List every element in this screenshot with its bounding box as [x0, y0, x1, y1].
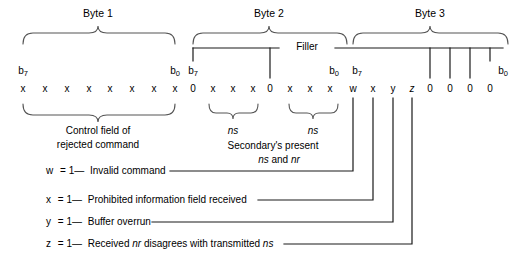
legend-eq-z: = 1— [58, 238, 82, 249]
bit-byte2-6: x [303, 84, 317, 94]
bit-byte2-1: x [206, 84, 220, 94]
legend-key-z: z [46, 238, 51, 249]
bit-byte1-1: x [38, 84, 52, 94]
bit-byte1-7: x [168, 84, 182, 94]
bit-byte2-3: x [246, 84, 260, 94]
byte-1-caption-line-1: Control field of [66, 126, 130, 136]
byte-2-msb-sub: 7 [194, 69, 198, 78]
bit-byte3-5: 0 [443, 84, 457, 94]
bit-byte2-4: 0 [263, 84, 277, 94]
legend-row-x: x = 1— Prohibited information field rece… [46, 195, 247, 205]
byte-2-lsb-label: b0 [329, 66, 339, 76]
bit-byte1-3: x [82, 84, 96, 94]
bit-byte1-5: x [125, 84, 139, 94]
legend-text-y: Buffer overrun [88, 216, 151, 227]
bit-byte1-4: x [103, 84, 117, 94]
bit-byte1-2: x [60, 84, 74, 94]
byte-3-msb-label: b7 [352, 66, 362, 76]
brace-ns-2 [289, 104, 338, 119]
byte-1-lsb-sub: 0 [176, 69, 180, 78]
byte-1-msb-label: b7 [18, 66, 28, 76]
ns-label-2: ns [308, 126, 319, 136]
byte-3-title: Byte 3 [415, 8, 445, 19]
ns-label-1: ns [228, 126, 239, 136]
bit-byte3-4: 0 [423, 84, 437, 94]
brace-byte-2 [193, 26, 347, 44]
legend-key-y: y [46, 216, 51, 227]
byte-2-title: Byte 2 [254, 8, 284, 19]
legend-row-y: y = 1— Buffer overrun [46, 217, 151, 227]
legend-row-w: w = 1— Invalid command [46, 166, 166, 176]
byte-1-title: Byte 1 [83, 8, 113, 19]
nr-italic: nr [291, 154, 300, 165]
bit-byte1-0: x [16, 84, 30, 94]
legend-eq-y: = 1— [58, 216, 82, 227]
legend-row-z: z = 1— Received nr disagrees with transm… [46, 239, 273, 249]
byte-2-caption-line-1: Secondary's present [228, 141, 319, 151]
legend-text-x: Prohibited information field received [88, 194, 247, 205]
legend-text-z-pre: Received [88, 238, 132, 249]
byte-1-lsb-label: b0 [170, 66, 180, 76]
legend-key-w: w [46, 165, 53, 176]
byte-2-msb-label: b7 [188, 66, 198, 76]
brace-byte-3 [353, 26, 508, 44]
bit-byte2-2: x [226, 84, 240, 94]
legend-eq-w: = 1— [60, 165, 84, 176]
byte-3-lsb-sub: 0 [504, 69, 508, 78]
legend-text-z-em2: ns [263, 238, 274, 249]
ns-italic: ns [258, 154, 269, 165]
bit-byte2-5: x [283, 84, 297, 94]
legend-text-w: Invalid command [90, 165, 166, 176]
byte-3-msb-sub: 7 [358, 69, 362, 78]
bit-byte2-7: x [323, 84, 337, 94]
bit-byte3-2: y [386, 84, 400, 94]
bit-byte3-3: z [405, 84, 419, 94]
bit-byte3-7: 0 [483, 84, 497, 94]
brace-byte-1 [23, 26, 175, 44]
legend-key-x: x [46, 194, 51, 205]
brace-ns-1 [209, 104, 258, 119]
byte-1-msb-sub: 7 [24, 69, 28, 78]
brace-control-field [23, 104, 175, 122]
byte-2-lsb-sub: 0 [335, 69, 339, 78]
bit-byte2-0: 0 [186, 84, 200, 94]
legend-eq-x: = 1— [58, 194, 82, 205]
legend-text-z-mid: disagrees with transmitted [141, 238, 263, 249]
byte-3-lsb-label: b0 [498, 66, 508, 76]
legend-text-z-em1: nr [132, 238, 141, 249]
bit-byte3-1: x [366, 84, 380, 94]
byte-1-caption-line-2: rejected command [57, 140, 139, 150]
filler-label: Filler [292, 42, 322, 52]
bit-byte1-6: x [147, 84, 161, 94]
byte-2-caption-line-2: ns and nr [258, 155, 300, 165]
bit-byte3-6: 0 [463, 84, 477, 94]
bit-byte3-0: w [346, 84, 360, 94]
